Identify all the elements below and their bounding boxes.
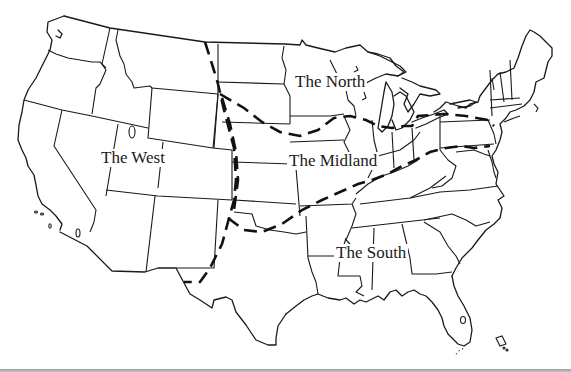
gulf-coast: [286, 276, 472, 346]
pacific-coast: [18, 16, 64, 230]
cape-cod: [534, 104, 538, 112]
michigan-lower-peninsula: [392, 92, 414, 130]
lake-huron: [400, 78, 440, 112]
west-boundary-line: [184, 42, 236, 282]
great-lakes: [362, 52, 476, 132]
north-midland-boundary-line: [220, 94, 494, 136]
northern-border: [64, 16, 404, 76]
dialect-map: The North The Midland The South The West: [0, 0, 571, 372]
region-label-south: The South: [334, 244, 408, 262]
lake-erie: [412, 110, 448, 128]
florida-keys: [456, 348, 464, 354]
region-label-north: The North: [293, 73, 367, 91]
great-salt-lake: [129, 126, 135, 138]
islands: [35, 66, 539, 354]
channel-island-2: [41, 213, 44, 215]
lake-okeechobee: [461, 317, 466, 324]
puget-sound: [56, 30, 62, 38]
bahamas-dot-2: [506, 349, 508, 351]
us-map-svg: [0, 0, 571, 372]
lake-winnebago-mark: [362, 92, 366, 100]
southern-border-west: [60, 232, 286, 345]
west-inner-branch-line: [222, 98, 238, 210]
atlantic-coast: [434, 30, 552, 276]
channel-island-3: [49, 224, 51, 228]
region-label-west: The West: [99, 149, 167, 167]
region-label-midland: The Midland: [287, 152, 379, 170]
channel-island-1: [35, 211, 38, 213]
salton-sea: [76, 229, 80, 237]
bahamas-outline: [496, 336, 506, 346]
lake-michigan: [378, 82, 394, 132]
bahamas-dot-1: [503, 347, 505, 349]
